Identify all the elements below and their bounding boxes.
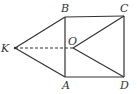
label-C: C bbox=[120, 3, 128, 14]
segment-BC bbox=[65, 16, 124, 17]
label-O: O bbox=[68, 36, 77, 47]
geometry-diagram: K B C O A D bbox=[0, 0, 137, 94]
segment-OC bbox=[73, 16, 124, 48]
segment-KA bbox=[15, 48, 65, 77]
point-K bbox=[14, 47, 16, 49]
label-B: B bbox=[61, 3, 69, 14]
label-K: K bbox=[1, 43, 9, 54]
label-D: D bbox=[120, 80, 129, 91]
label-A: A bbox=[62, 80, 70, 91]
segment-KB bbox=[15, 17, 65, 48]
segment-OD bbox=[73, 48, 124, 77]
